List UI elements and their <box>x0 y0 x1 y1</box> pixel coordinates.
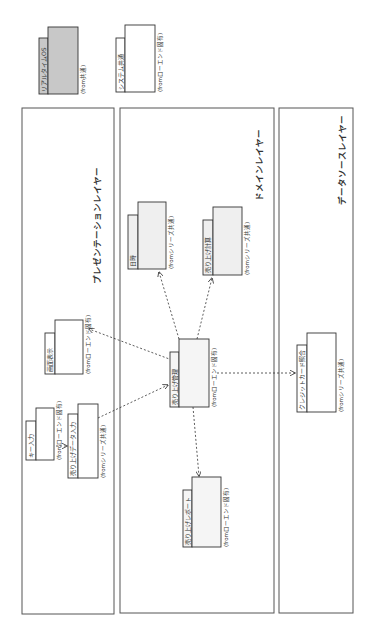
legend-package-0: リアルタイムOS(from共通) <box>39 27 87 94</box>
package-body <box>36 408 54 460</box>
legend-package-1: システム共通(fromローエンド固有) <box>116 25 164 92</box>
legend-name: システム共通 <box>117 54 125 90</box>
domain-layer-label: ドメインレイヤー <box>254 129 264 201</box>
legend-body <box>125 25 155 92</box>
datasource-layer-label: データソースレイヤー <box>337 115 347 205</box>
package-name: 画面表示 <box>46 348 54 372</box>
package-name: 売り上げデータ入力 <box>69 422 77 476</box>
package-origin: (fromシリーズ共通) <box>99 425 107 478</box>
legend-origin: (fromローエンド固有) <box>156 33 164 92</box>
presentation-layer-label: プレゼンテーションレイヤー <box>92 167 102 284</box>
package-diagram: プレゼンテーションレイヤー ドメインレイヤー データソースレイヤー 画面表示(f… <box>0 0 376 631</box>
package-name: クレジットカード照合 <box>298 350 306 410</box>
package-body <box>78 404 98 478</box>
package-name: キー入力 <box>27 434 35 458</box>
package-origin: (fromローエンド固有) <box>55 401 63 460</box>
package-body <box>192 477 221 547</box>
package-body <box>55 320 83 374</box>
legend-origin: (from共通) <box>79 65 87 94</box>
package-body <box>213 207 242 275</box>
package-name: 売り上げ管理 <box>171 369 179 405</box>
package-body <box>179 339 209 407</box>
package-origin: (fromローエンド固有) <box>222 488 230 547</box>
package-origin: (fromシリーズ共通) <box>243 222 251 275</box>
package-body <box>138 202 166 269</box>
package-origin: (fromローエンド固有) <box>84 315 92 374</box>
package-body <box>307 333 336 412</box>
legend-body <box>48 27 78 94</box>
package-name: 売り上げ計算 <box>204 237 212 273</box>
package-origin: (fromシリーズ共通) <box>337 359 345 412</box>
package-name: 日時 <box>129 255 137 267</box>
package-origin: (fromシリーズ共通) <box>167 216 175 269</box>
package-name: 売り上げレポート <box>184 497 192 545</box>
legend-name: リアルタイムOS <box>40 47 47 92</box>
package-origin: (fromローエンド固有) <box>210 348 218 407</box>
